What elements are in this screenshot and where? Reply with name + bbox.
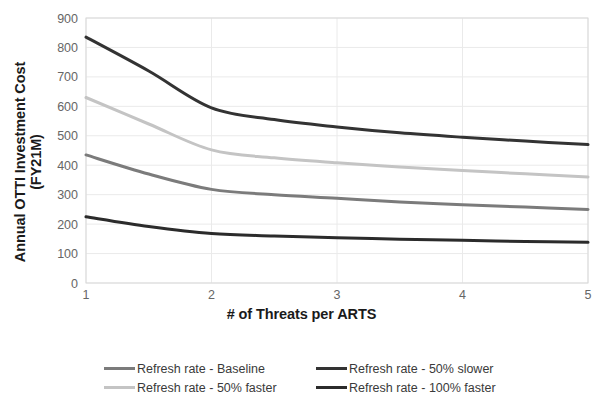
- legend-item[interactable]: Refresh rate - 50% slower: [316, 362, 528, 376]
- plot-area: 0100200300400500600700800900 12345: [0, 0, 603, 300]
- x-axis-tick-labels: 12345: [83, 288, 592, 300]
- line-chart: Annual OTTI Investment Cost (FY21M) 0100…: [0, 0, 603, 405]
- x-tick-label: 4: [459, 288, 466, 300]
- y-tick-label: 200: [57, 218, 78, 232]
- legend-item[interactable]: Refresh rate - Baseline: [104, 362, 316, 376]
- x-axis-title: # of Threats per ARTS: [0, 306, 603, 322]
- y-tick-label: 0: [71, 277, 78, 291]
- x-tick-label: 2: [208, 288, 215, 300]
- legend-swatch-icon: [316, 386, 347, 389]
- y-tick-label: 800: [57, 41, 78, 55]
- y-tick-label: 600: [57, 100, 78, 114]
- y-tick-label: 100: [57, 247, 78, 261]
- grid-lines: [86, 18, 588, 283]
- legend-swatch-icon: [104, 367, 135, 370]
- y-tick-label: 500: [57, 129, 78, 143]
- x-tick-label: 5: [585, 288, 592, 300]
- y-tick-label: 700: [57, 70, 78, 84]
- legend-swatch-icon: [316, 367, 347, 370]
- legend-item[interactable]: Refresh rate - 50% faster: [104, 381, 316, 395]
- legend-item-label: Refresh rate - 100% faster: [349, 381, 496, 395]
- y-tick-label: 300: [57, 188, 78, 202]
- y-tick-label: 400: [57, 159, 78, 173]
- y-tick-label: 900: [57, 12, 78, 26]
- legend-item[interactable]: Refresh rate - 100% faster: [316, 381, 528, 395]
- y-axis-tick-labels: 0100200300400500600700800900: [57, 12, 78, 291]
- legend-item-label: Refresh rate - Baseline: [137, 362, 265, 376]
- legend-item-label: Refresh rate - 50% slower: [349, 362, 494, 376]
- x-tick-label: 1: [83, 288, 90, 300]
- legend-swatch-icon: [104, 386, 135, 389]
- x-tick-label: 3: [334, 288, 341, 300]
- legend-item-label: Refresh rate - 50% faster: [137, 381, 277, 395]
- chart-legend: Refresh rate - BaselineRefresh rate - 50…: [104, 359, 524, 397]
